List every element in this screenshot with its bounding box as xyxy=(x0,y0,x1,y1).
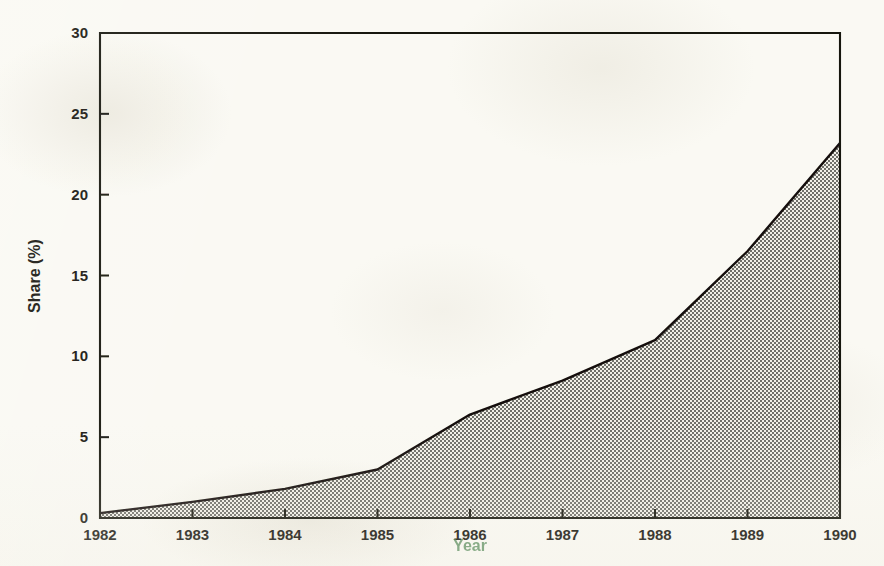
scanned-figure-page: 051015202530 198219831984198519861987198… xyxy=(0,0,884,566)
x-tick-label: 1982 xyxy=(83,526,116,543)
y-tick-label: 30 xyxy=(71,24,88,41)
x-tick-label: 1983 xyxy=(176,526,209,543)
y-tick-label: 5 xyxy=(80,428,88,445)
y-tick-label: 0 xyxy=(80,509,88,526)
y-axis-tick-labels: 051015202530 xyxy=(71,24,88,526)
y-axis-tick-marks xyxy=(100,33,109,518)
y-tick-label: 25 xyxy=(71,105,88,122)
x-axis-title: Year xyxy=(453,537,487,554)
y-tick-label: 10 xyxy=(71,347,88,364)
x-tick-label: 1990 xyxy=(823,526,856,543)
series-area-fill xyxy=(100,143,840,518)
y-tick-label: 15 xyxy=(71,267,88,284)
area-chart: 051015202530 198219831984198519861987198… xyxy=(0,0,884,566)
x-tick-label: 1989 xyxy=(731,526,764,543)
x-tick-label: 1984 xyxy=(268,526,302,543)
y-tick-label: 20 xyxy=(71,186,88,203)
x-tick-label: 1985 xyxy=(361,526,394,543)
x-tick-label: 1988 xyxy=(638,526,671,543)
x-tick-label: 1987 xyxy=(546,526,579,543)
y-axis-title: Share (%) xyxy=(26,239,43,313)
